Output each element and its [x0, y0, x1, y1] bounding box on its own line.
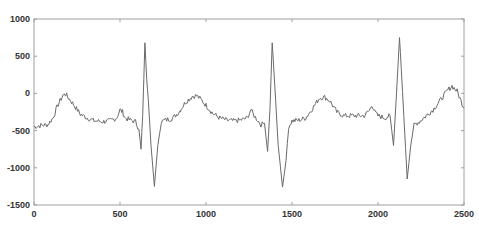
y-tick-label: -1000 [7, 163, 30, 173]
signal-trace [34, 38, 464, 188]
ecg-line-chart: 10005000-500-1000-1500 05001000150020002… [0, 0, 479, 229]
y-tick-label: 0 [25, 88, 30, 98]
x-tick-label: 1000 [196, 209, 216, 219]
y-tick-label: 500 [15, 51, 30, 61]
x-tick-label: 500 [112, 209, 127, 219]
x-axis: 05001000150020002500 [31, 19, 474, 219]
x-tick-label: 1500 [282, 209, 302, 219]
x-tick-label: 2000 [368, 209, 388, 219]
x-tick-label: 2500 [454, 209, 474, 219]
y-tick-label: -500 [12, 126, 30, 136]
x-tick-label: 0 [31, 209, 36, 219]
y-tick-label: 1000 [10, 14, 30, 24]
y-tick-label: -1500 [7, 200, 30, 210]
